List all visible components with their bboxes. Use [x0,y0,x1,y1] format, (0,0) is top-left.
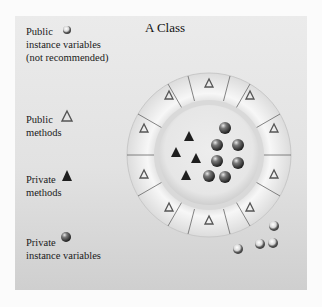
gray-sphere-icon [233,244,243,254]
class-diagram-graphic [0,0,322,307]
dark-sphere-icon [211,139,223,151]
dark-sphere-icon [211,155,223,167]
dark-sphere-icon [61,232,71,242]
gray-sphere-icon [268,238,278,248]
gray-sphere-icon [269,221,279,231]
dark-sphere-icon [219,122,231,134]
dark-sphere-icon [232,139,244,151]
gray-sphere-icon [63,26,71,34]
dark-sphere-icon [232,157,244,169]
gray-sphere-icon [255,239,265,249]
dark-sphere-icon [219,171,231,183]
dark-sphere-icon [203,170,215,182]
outline-triangle-icon [62,111,72,121]
filled-triangle-icon [62,170,72,181]
